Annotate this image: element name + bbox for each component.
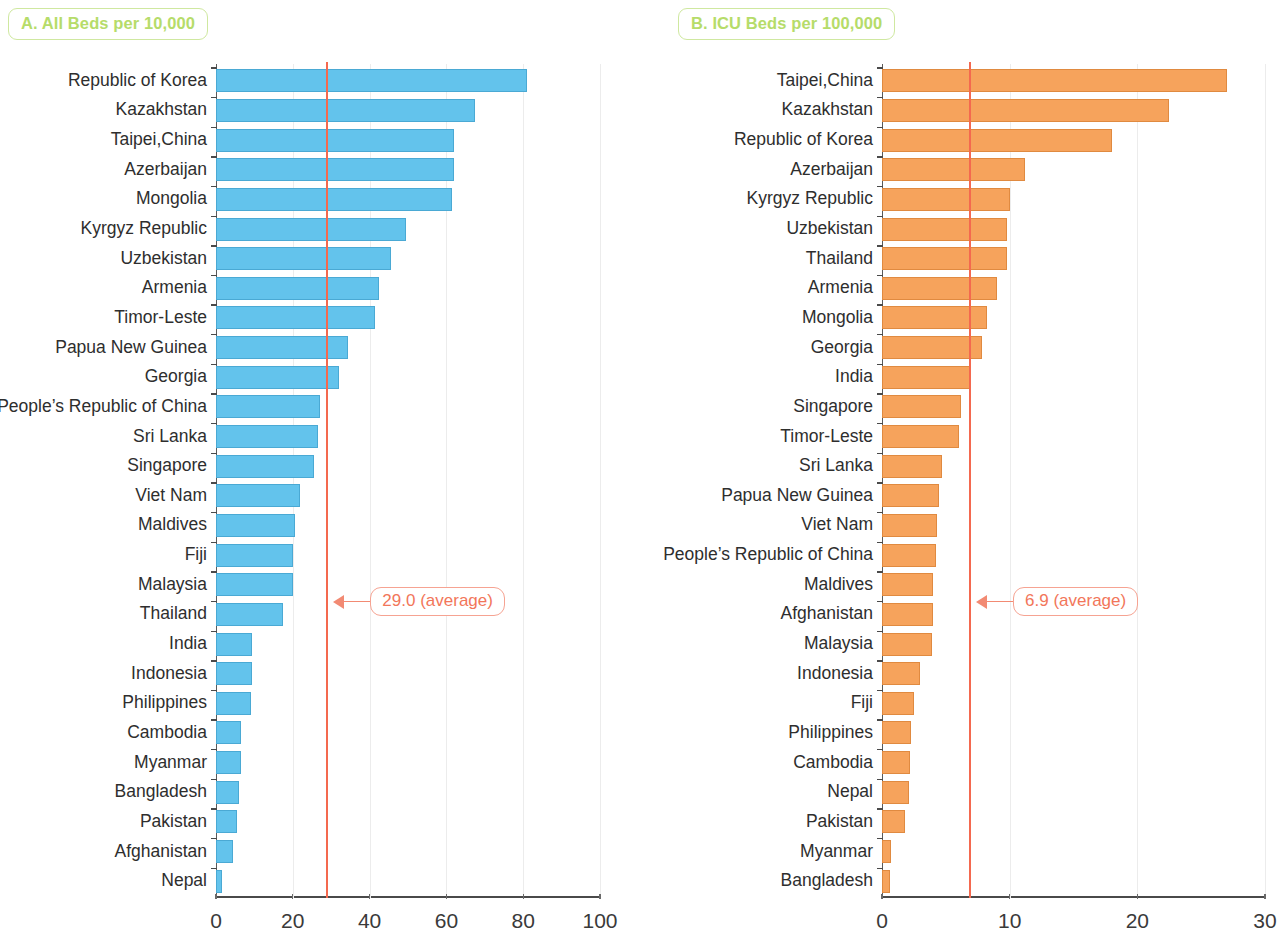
bar	[216, 692, 251, 715]
category-label: Kyrgyz Republic	[747, 191, 873, 209]
x-axis-tick	[1009, 894, 1010, 899]
y-axis-tick	[877, 186, 883, 187]
category-label: Papua New Guinea	[55, 339, 207, 357]
bar-row: Azerbaijan	[216, 158, 600, 181]
y-axis-tick	[211, 334, 217, 335]
bar-row: Nepal	[216, 870, 600, 893]
bar	[216, 662, 252, 685]
bar	[882, 484, 939, 507]
bar-row: Georgia	[882, 336, 1265, 359]
category-label: Singapore	[127, 457, 207, 475]
bar-row: Azerbaijan	[882, 158, 1265, 181]
bar	[216, 633, 252, 656]
bar-row: Uzbekistan	[882, 218, 1265, 241]
category-label: Malaysia	[804, 635, 873, 653]
bar	[882, 366, 971, 389]
bar	[882, 218, 1007, 241]
x-axis-tick-label: 10	[998, 909, 1021, 932]
bar-row: Sri Lanka	[216, 425, 600, 448]
y-axis-tick	[877, 868, 883, 869]
y-axis-tick	[877, 67, 883, 68]
bar-row: Armenia	[882, 277, 1265, 300]
category-label: Timor-Leste	[780, 428, 873, 446]
y-axis-tick	[211, 571, 217, 572]
x-axis-tick	[369, 894, 370, 899]
category-label: Mongolia	[136, 191, 207, 209]
bar	[882, 870, 890, 893]
category-label: Bangladesh	[115, 784, 207, 802]
bar	[882, 99, 1169, 122]
category-label: Thailand	[140, 606, 207, 624]
category-label: Georgia	[811, 339, 873, 357]
bar-row: Myanmar	[216, 751, 600, 774]
category-label: Republic of Korea	[734, 131, 873, 149]
bar	[882, 455, 942, 478]
x-axis-tick	[523, 894, 524, 899]
bar-row: Indonesia	[882, 662, 1265, 685]
bar	[216, 573, 293, 596]
x-axis-tick-label: 60	[435, 909, 458, 932]
x-axis-tick	[1264, 894, 1265, 899]
y-axis-tick	[877, 216, 883, 217]
bar-row: Nepal	[882, 781, 1265, 804]
bar	[216, 158, 454, 181]
annotation-connector	[987, 601, 1013, 603]
x-gridline	[1265, 64, 1266, 898]
bar	[216, 395, 320, 418]
bar	[882, 425, 959, 448]
average-line	[969, 62, 971, 898]
bar-row: Singapore	[216, 455, 600, 478]
x-axis-tick	[1137, 894, 1138, 899]
bar	[882, 247, 1007, 270]
bar-row: Maldives	[216, 514, 600, 537]
bar	[882, 751, 910, 774]
panel-a-title: A. All Beds per 10,000	[8, 8, 208, 40]
category-label: Fiji	[185, 546, 207, 564]
x-axis-tick-label: 0	[210, 909, 222, 932]
bar	[216, 99, 475, 122]
bar-row: Malaysia	[882, 633, 1265, 656]
bar	[216, 69, 527, 92]
category-label: Papua New Guinea	[721, 487, 873, 505]
y-axis-tick	[877, 304, 883, 305]
bar-row: Kazakhstan	[216, 99, 600, 122]
y-axis-tick	[211, 453, 217, 454]
category-label: Cambodia	[127, 724, 207, 742]
category-label: People’s Republic of China	[0, 398, 207, 416]
y-axis-tick	[877, 453, 883, 454]
category-label: Mongolia	[802, 309, 873, 327]
x-axis-line	[216, 896, 600, 898]
y-axis-tick	[877, 808, 883, 809]
bar-row: Bangladesh	[216, 781, 600, 804]
category-label: Maldives	[138, 517, 207, 535]
panel-all-beds: A. All Beds per 10,000 020406080100Repub…	[0, 0, 640, 926]
x-axis-tick	[215, 894, 216, 899]
category-label: Nepal	[827, 784, 873, 802]
bar-row: Timor-Leste	[882, 425, 1265, 448]
bar	[882, 336, 982, 359]
y-axis-tick	[211, 838, 217, 839]
y-axis-tick	[877, 423, 883, 424]
bar-row: Republic of Korea	[882, 129, 1265, 152]
bar-row: Thailand	[882, 247, 1265, 270]
bar-row: Papua New Guinea	[216, 336, 600, 359]
category-label: Cambodia	[793, 754, 873, 772]
y-axis-tick	[211, 808, 217, 809]
x-axis-tick-label: 30	[1253, 909, 1276, 932]
bar	[882, 662, 920, 685]
bar	[216, 129, 454, 152]
bar	[216, 840, 233, 863]
category-label: India	[835, 369, 873, 387]
x-axis-tick	[599, 894, 600, 899]
category-label: Nepal	[161, 872, 207, 890]
average-annotation: 29.0 (average)	[333, 587, 505, 616]
bar-row: Philippines	[216, 692, 600, 715]
y-axis-tick	[877, 631, 883, 632]
x-axis-tick	[292, 894, 293, 899]
bar	[882, 781, 909, 804]
bar-row: Cambodia	[216, 721, 600, 744]
bar	[882, 573, 933, 596]
arrow-left-icon	[976, 595, 987, 609]
bar	[216, 188, 452, 211]
y-axis-tick	[211, 393, 217, 394]
